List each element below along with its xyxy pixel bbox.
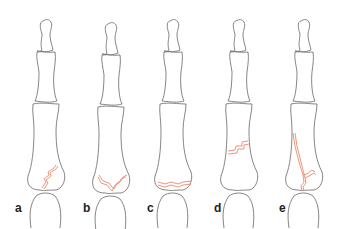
finger-fracture-diagram	[0, 0, 343, 229]
finger-d	[221, 20, 258, 228]
panel-label-a: a	[15, 201, 22, 215]
panel-label-e: e	[279, 201, 286, 215]
panel-label-d: d	[214, 201, 221, 215]
fracture-line-a	[42, 165, 56, 188]
finger-e	[286, 20, 323, 228]
finger-b	[93, 23, 130, 229]
panel-label-c: c	[147, 201, 154, 215]
finger-c	[155, 20, 192, 228]
fracture-line-c	[158, 181, 191, 184]
panel-label-b: b	[83, 201, 90, 215]
finger-a	[28, 20, 65, 228]
